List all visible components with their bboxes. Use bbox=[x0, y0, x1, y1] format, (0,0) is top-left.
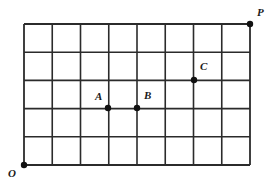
point-c-marker bbox=[191, 77, 197, 83]
point-a-label: A bbox=[95, 91, 102, 102]
grid-canvas bbox=[0, 0, 277, 189]
point-a-marker bbox=[105, 105, 111, 111]
grid-lines bbox=[24, 24, 250, 165]
lattice-grid-figure: OABCP bbox=[0, 0, 277, 189]
point-p-label: P bbox=[257, 7, 264, 18]
point-o-marker bbox=[21, 162, 27, 168]
point-b-label: B bbox=[144, 90, 151, 101]
point-p-marker bbox=[247, 21, 253, 27]
point-b-marker bbox=[134, 105, 140, 111]
point-o-label: O bbox=[8, 168, 16, 179]
point-c-label: C bbox=[200, 61, 207, 72]
